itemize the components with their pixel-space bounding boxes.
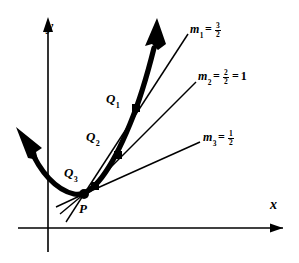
slope-label-m2: m2=22=1 [198, 69, 247, 86]
y-axis-label-text: y [47, 19, 53, 34]
x-axis-label: x [270, 198, 277, 212]
slope-label-m1-subscript: 1 [200, 31, 204, 40]
parabola-lower-arrowhead [16, 127, 42, 160]
point-label-Q2-text: Q [86, 129, 95, 144]
figure-graphic [0, 0, 299, 263]
slope-label-m2-equals: = [211, 69, 222, 83]
slope-label-m1-equals: = [203, 22, 214, 36]
slope-label-m3-numerator: 1 [229, 130, 233, 138]
slope-label-m3-denominator: 2 [229, 139, 233, 147]
slope-label-m1-name: m [190, 22, 199, 36]
y-axis-label: y [47, 20, 53, 34]
slope-label-m2-extra-equals: = [230, 69, 241, 83]
point-marker-Q3 [91, 182, 99, 190]
x-axis-arrowhead [270, 224, 283, 233]
slope-label-m2-fraction: 22 [223, 69, 229, 86]
point-marker-Q2 [114, 151, 122, 159]
point-label-P-text: P [79, 201, 87, 216]
point-label-Q3-subscript: 3 [74, 175, 78, 184]
point-label-Q2: Q2 [86, 130, 99, 147]
figure-container: y x P Q1 Q2 Q3 m1=32 m2=22=1 m3=12 [0, 0, 299, 263]
slope-label-m2-numerator: 2 [224, 69, 228, 77]
slope-label-m1-denominator: 2 [216, 31, 220, 39]
point-label-Q3-text: Q [64, 165, 73, 180]
slope-label-m3-subscript: 3 [213, 139, 217, 148]
parabola-upper-arrowhead [145, 18, 166, 50]
point-marker-Q1 [132, 104, 140, 112]
slope-label-m3-fraction: 12 [228, 130, 234, 147]
point-label-Q1: Q1 [106, 92, 119, 109]
slope-label-m3-name: m [203, 130, 212, 144]
slope-label-m3-equals: = [216, 130, 227, 144]
slope-label-m1-numerator: 3 [216, 22, 220, 30]
point-label-Q2-subscript: 2 [96, 139, 100, 148]
slope-label-m1: m1=32 [190, 22, 222, 39]
point-label-Q3: Q3 [64, 166, 77, 183]
point-label-P: P [79, 202, 87, 215]
slope-label-m3: m3=12 [203, 130, 235, 147]
point-marker-P [79, 189, 89, 199]
point-label-Q1-subscript: 1 [116, 101, 120, 110]
slope-label-m1-fraction: 32 [215, 22, 221, 39]
point-label-Q1-text: Q [106, 91, 115, 106]
x-axis-label-text: x [270, 197, 277, 212]
slope-label-m2-subscript: 2 [208, 78, 212, 87]
slope-label-m2-name: m [198, 69, 207, 83]
slope-label-m2-extra-value: 1 [241, 69, 247, 83]
slope-label-m2-denominator: 2 [224, 78, 228, 86]
